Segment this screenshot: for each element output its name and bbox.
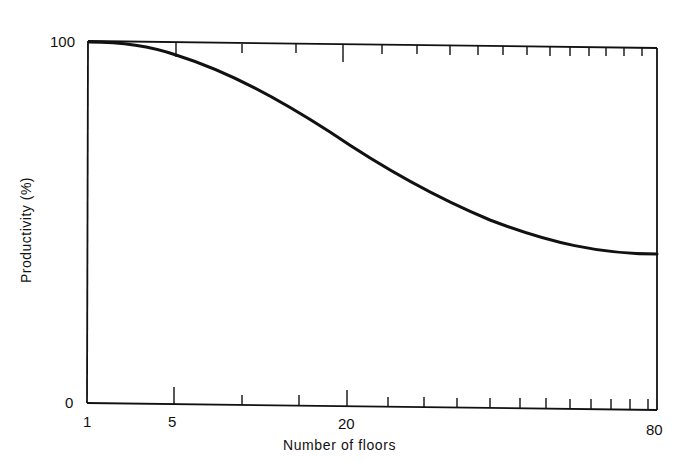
productivity-curve — [89, 42, 657, 254]
y-tick-0: 0 — [65, 394, 73, 411]
y-tick-100: 100 — [50, 33, 75, 50]
top-border — [88, 41, 657, 48]
productivity-chart — [0, 0, 693, 472]
x-tick-5: 5 — [168, 413, 176, 430]
x-tick-1: 1 — [83, 413, 91, 430]
y-axis-label: Productivity (%) — [18, 177, 34, 283]
x-axis-label: Number of floors — [283, 437, 396, 453]
x-tick-80: 80 — [646, 421, 663, 438]
y-axis — [87, 41, 88, 403]
x-tick-20: 20 — [338, 415, 355, 432]
x-axis — [87, 403, 657, 410]
